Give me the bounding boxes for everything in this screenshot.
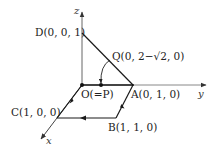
label-C: C(1, 0, 0)	[11, 107, 61, 118]
arrow-BC	[80, 116, 86, 121]
label-Q: Q(0, 2−√2, 0)	[112, 51, 184, 62]
z-axis-label: z	[74, 6, 79, 16]
y-axis-label: y	[198, 89, 204, 99]
label-A: A(0, 1, 0)	[131, 89, 180, 100]
segment-CO	[57, 85, 82, 118]
point-A-dot	[132, 84, 134, 86]
point-O-dot	[80, 83, 84, 87]
label-B: B(1, 1, 0)	[108, 122, 157, 133]
rotation-arc	[101, 60, 110, 83]
label-D: D(0, 0, 1)	[35, 27, 85, 38]
point-rotated-Q-dot	[99, 83, 103, 87]
label-O: O(=P)	[81, 89, 114, 100]
diagram-canvas: z y x D(0, 0, 1) Q(0, 2−√2, 0) O(=P) A(0…	[0, 0, 218, 151]
x-axis-label: x	[46, 136, 52, 146]
